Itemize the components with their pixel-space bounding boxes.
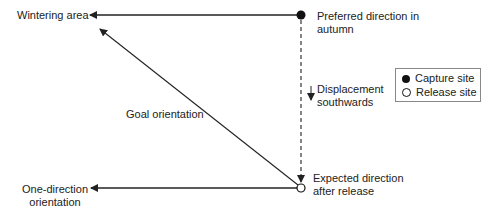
legend-release-label: Release site bbox=[416, 86, 477, 99]
legend-capture-label: Capture site bbox=[415, 72, 474, 85]
goal-orientation-label: Goal orientation bbox=[126, 108, 204, 121]
legend: Capture site Release site bbox=[395, 68, 481, 102]
legend-item-release-site: Release site bbox=[402, 86, 477, 99]
displacement-label: Displacement southwards bbox=[317, 83, 384, 109]
one-direction-label: One-direction orientation bbox=[22, 183, 88, 209]
legend-item-capture-site: Capture site bbox=[402, 72, 474, 85]
open-circle-icon bbox=[402, 88, 411, 97]
one-direction-line2: orientation bbox=[22, 196, 88, 209]
goal-orientation-arrow bbox=[100, 29, 298, 185]
filled-circle-icon bbox=[402, 75, 410, 83]
expected-direction-label: Expected direction after release bbox=[313, 172, 404, 198]
capture-site-marker bbox=[297, 11, 306, 20]
release-site-marker bbox=[297, 184, 305, 192]
displacement-line2: southwards bbox=[317, 96, 384, 109]
preferred-direction-line2: autumn bbox=[317, 23, 419, 36]
wintering-area-label: Wintering area bbox=[17, 9, 89, 22]
expected-direction-line1: Expected direction bbox=[313, 172, 404, 185]
diagram-canvas bbox=[0, 0, 498, 210]
one-direction-line1: One-direction bbox=[22, 183, 88, 196]
displacement-line1: Displacement bbox=[317, 83, 384, 96]
preferred-direction-label: Preferred direction in autumn bbox=[317, 10, 419, 36]
preferred-direction-line1: Preferred direction in bbox=[317, 10, 419, 23]
expected-direction-line2: after release bbox=[313, 185, 404, 198]
